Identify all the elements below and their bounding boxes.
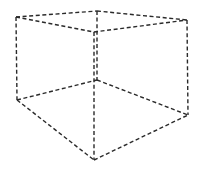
cube-edges (16, 11, 188, 160)
edge-top-left-front (16, 17, 94, 32)
edge-vertical-left (16, 17, 17, 100)
edge-top-left-back (16, 11, 97, 17)
edge-bottom-left-back (17, 80, 97, 100)
edge-top-back-right (97, 11, 187, 20)
edge-bottom-back-right (97, 80, 188, 115)
edge-vertical-right (187, 20, 188, 115)
edge-bottom-left-front (17, 100, 94, 160)
edge-top-front-right (94, 20, 187, 32)
edge-bottom-front-right (94, 115, 188, 160)
wireframe-cube-diagram (0, 0, 205, 173)
